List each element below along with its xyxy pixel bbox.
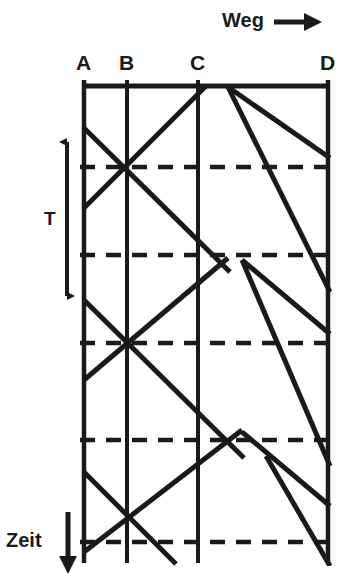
zeit-arrow-head-icon <box>59 556 77 574</box>
time-distance-diagram: Weg Zeit T A B C D <box>0 0 343 582</box>
train-path-down-3 <box>84 300 244 458</box>
train-path-down-1 <box>84 128 230 272</box>
weg-arrow <box>274 13 322 31</box>
train-path-up-5 <box>84 430 242 552</box>
zeit-arrow <box>59 512 77 574</box>
diagram-canvas <box>0 0 343 582</box>
station-lines <box>84 80 328 563</box>
train-path-up-6 <box>266 456 330 566</box>
weg-arrow-head-icon <box>304 13 322 31</box>
train-paths <box>84 86 330 566</box>
train-path-up-4 <box>242 260 330 466</box>
